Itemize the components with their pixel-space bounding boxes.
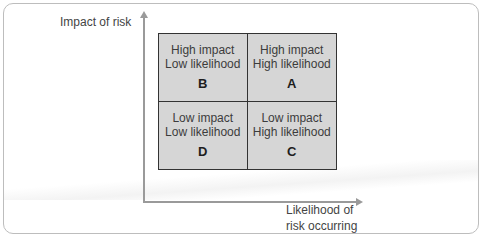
quadrant-c: Low impact High likelihood C — [248, 102, 337, 170]
x-axis-label-line2: risk occurring — [286, 218, 396, 234]
y-axis-label: Impact of risk — [60, 15, 140, 29]
x-axis-label: Likelihood of risk occurring — [286, 202, 396, 234]
quadrant-letter: D — [198, 145, 207, 159]
quadrant-a: High impact High likelihood A — [248, 34, 337, 102]
y-axis — [143, 16, 145, 202]
quadrant-b: High impact Low likelihood B — [159, 34, 248, 102]
quadrant-line1: High impact — [171, 43, 234, 57]
quadrant-line2: Low likelihood — [165, 57, 240, 71]
x-axis-label-line1: Likelihood of — [286, 202, 396, 218]
quadrant-letter: C — [287, 145, 296, 159]
quadrant-line2: High likelihood — [253, 125, 331, 139]
y-axis-arrow-icon — [140, 11, 148, 18]
quadrant-line1: Low impact — [172, 111, 233, 125]
risk-matrix: High impact Low likelihood B High impact… — [158, 33, 337, 170]
quadrant-line1: Low impact — [261, 111, 322, 125]
quadrant-letter: B — [198, 77, 207, 91]
quadrant-line1: High impact — [260, 43, 323, 57]
quadrant-letter: A — [287, 77, 296, 91]
quadrant-line2: High likelihood — [253, 57, 331, 71]
quadrant-line2: Low likelihood — [165, 125, 240, 139]
quadrant-d: Low impact Low likelihood D — [159, 102, 248, 170]
